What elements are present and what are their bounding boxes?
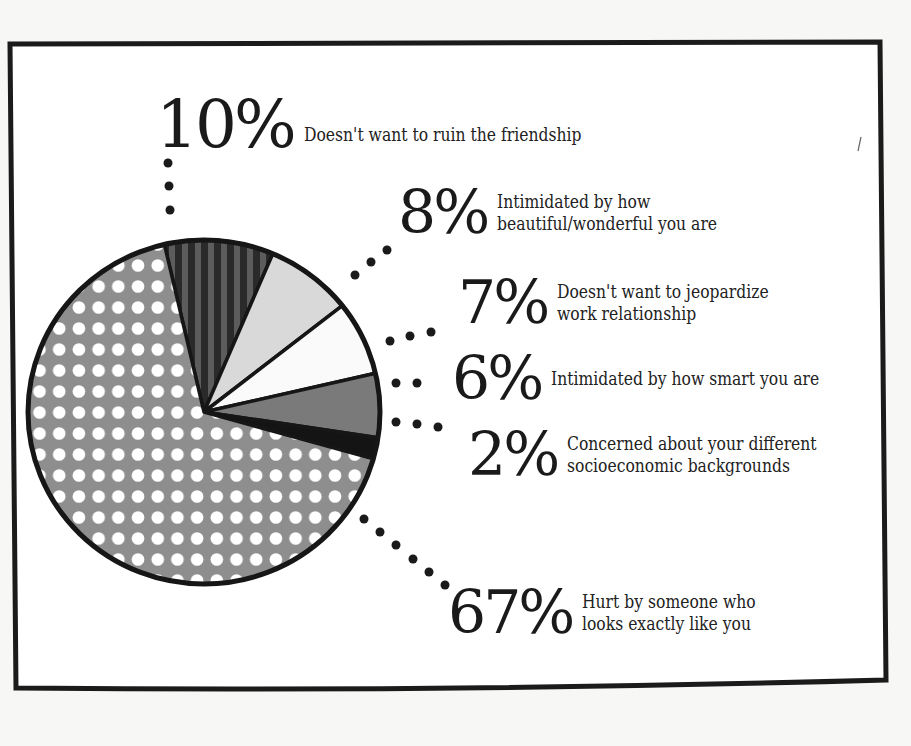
callout-67: 67% Hurt by someone who looks exactly li… — [448, 582, 794, 642]
callout-text: Intimidated by how smart you are — [551, 367, 819, 389]
callout-text: Doesn't want to ruin the friendship — [304, 123, 581, 145]
callout-8: 8% Intimidated by how beautiful/wonderfu… — [398, 182, 766, 242]
callout-text: Doesn't want to jeopardize work relation… — [557, 280, 769, 324]
pct-value: 2% — [468, 424, 557, 484]
leader-dot — [427, 328, 436, 337]
callout-6: 6% Intimidated by how smart you are — [452, 348, 878, 408]
callout-2: 2% Concerned about your different socioe… — [468, 424, 872, 484]
callout-7: 7% Doesn't want to jeopardize work relat… — [458, 272, 815, 332]
leader-dot — [409, 555, 418, 564]
pct-value: 6% — [452, 348, 541, 408]
leader-dot — [413, 420, 422, 429]
leader-dot — [376, 528, 385, 537]
leader-dot — [351, 271, 360, 280]
leader-dot — [386, 337, 395, 346]
leader-dot — [360, 515, 369, 524]
pct-value: 10% — [156, 92, 294, 158]
callout-text: Intimidated by how beautiful/wonderful y… — [497, 190, 717, 234]
leader-dot — [392, 379, 401, 388]
leader-dot — [425, 568, 434, 577]
callout-10: 10% Doesn't want to ruin the friendship — [156, 92, 642, 158]
leader-dot — [165, 182, 174, 191]
leader-dot — [406, 332, 415, 341]
leader-dot — [367, 258, 376, 267]
pct-value: 7% — [458, 272, 547, 332]
callout-text: Hurt by someone who looks exactly like y… — [582, 590, 756, 634]
pct-value: 67% — [448, 582, 572, 642]
leader-dot — [392, 418, 401, 427]
pct-value: 8% — [398, 182, 487, 242]
leader-dot — [413, 379, 422, 388]
leader-dot — [392, 541, 401, 550]
leader-dot — [383, 246, 392, 255]
leader-dot — [434, 423, 443, 432]
leader-dot — [166, 206, 175, 215]
callout-text: Concerned about your different socioecon… — [567, 432, 817, 476]
pie-chart — [28, 240, 380, 584]
